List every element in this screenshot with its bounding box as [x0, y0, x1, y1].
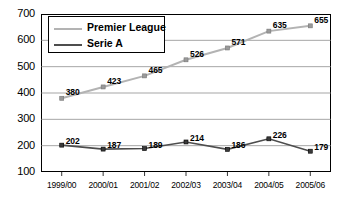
line-chart: 100200300400500600700 1999/002000/012001… [0, 0, 352, 203]
data-point-marker [267, 29, 271, 33]
x-axis-tick-label: 2005/06 [282, 180, 338, 190]
y-axis-tick-label: 100 [1, 165, 35, 177]
data-point-marker [184, 140, 188, 144]
data-point-label: 226 [273, 130, 287, 140]
legend: Premier League Serie A [48, 16, 165, 53]
data-point-label: 380 [66, 87, 80, 97]
y-axis-tick-label: 500 [1, 60, 35, 72]
data-point-label: 202 [66, 136, 80, 146]
y-axis-tick-label: 600 [1, 33, 35, 45]
data-point-marker [308, 149, 312, 153]
legend-label-premier-league: Premier League [87, 21, 166, 33]
data-point-label: 423 [107, 76, 121, 86]
data-point-marker [60, 96, 64, 100]
data-point-label: 189 [149, 140, 163, 150]
data-point-label: 465 [149, 65, 163, 75]
data-point-marker [225, 46, 229, 50]
data-point-marker [143, 147, 147, 151]
y-axis-tick-label: 400 [1, 86, 35, 98]
data-point-marker [60, 143, 64, 147]
data-point-label: 179 [314, 142, 328, 152]
legend-item-premier-league: Premier League [49, 19, 164, 36]
legend-item-serie-a: Serie A [49, 36, 164, 53]
y-axis-tick-label: 300 [1, 112, 35, 124]
data-point-marker [225, 147, 229, 151]
data-point-label: 526 [190, 49, 204, 59]
data-point-label: 214 [190, 133, 204, 143]
data-point-marker [267, 137, 271, 141]
data-point-label: 187 [107, 140, 121, 150]
data-point-label: 571 [231, 37, 245, 47]
legend-swatch-premier-league [54, 28, 82, 30]
data-point-marker [101, 147, 105, 151]
data-point-label: 635 [273, 20, 287, 30]
data-point-label: 655 [314, 15, 328, 25]
x-axis-ticks [62, 172, 311, 176]
legend-swatch-serie-a [54, 44, 82, 46]
y-axis-tick-label: 200 [1, 139, 35, 151]
data-point-marker [308, 24, 312, 28]
data-point-label: 186 [231, 140, 245, 150]
y-axis-tick-label: 700 [1, 7, 35, 19]
data-point-marker [184, 58, 188, 62]
data-point-marker [101, 85, 105, 89]
legend-label-serie-a: Serie A [87, 37, 123, 49]
data-point-marker [143, 74, 147, 78]
